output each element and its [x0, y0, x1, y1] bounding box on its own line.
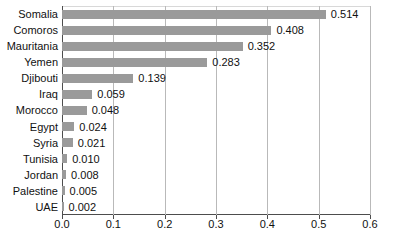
category-label: Comoros [0, 22, 58, 38]
bar-row: 0.010 [62, 151, 370, 167]
bar-value-label: 0.048 [92, 102, 120, 118]
x-axis-tick-label: 0.2 [157, 218, 172, 230]
category-label: Somalia [0, 6, 58, 22]
bar [62, 90, 92, 99]
category-label: Morocco [0, 102, 58, 118]
horizontal-bar-chart: 0.5140.4080.3520.2830.1390.0590.0480.024… [0, 0, 394, 247]
category-label: Syria [0, 135, 58, 151]
bar-row: 0.008 [62, 167, 370, 183]
bar [62, 186, 65, 195]
bar [62, 58, 207, 67]
category-label: Mauritania [0, 38, 58, 54]
bar-row: 0.408 [62, 22, 370, 38]
bar-value-label: 0.008 [71, 167, 99, 183]
bar-row: 0.139 [62, 70, 370, 86]
x-axis-tick-label: 0.3 [208, 218, 223, 230]
x-axis-tick-label: 0.6 [362, 218, 377, 230]
bar-value-label: 0.024 [79, 119, 107, 135]
bar [62, 170, 66, 179]
bar-row: 0.048 [62, 102, 370, 118]
bar-row: 0.283 [62, 54, 370, 70]
x-axis-tick-label: 0.0 [54, 218, 69, 230]
bar [62, 42, 243, 51]
bar-row: 0.514 [62, 6, 370, 22]
category-label: Jordan [0, 167, 58, 183]
bar [62, 154, 67, 163]
bar-row: 0.059 [62, 86, 370, 102]
bar-row: 0.021 [62, 135, 370, 151]
bar-value-label: 0.139 [138, 70, 166, 86]
x-axis-tick-label: 0.4 [260, 218, 275, 230]
bar [62, 138, 73, 147]
gridline [370, 6, 371, 215]
x-axis-tick-label: 0.1 [106, 218, 121, 230]
category-label: Egypt [0, 119, 58, 135]
category-label: Djibouti [0, 70, 58, 86]
bar-row: 0.005 [62, 183, 370, 199]
bar-value-label: 0.408 [276, 22, 304, 38]
category-label: Yemen [0, 54, 58, 70]
bar-value-label: 0.059 [97, 86, 125, 102]
bar-value-label: 0.005 [70, 183, 98, 199]
bar [62, 202, 64, 211]
category-label: UAE [0, 199, 58, 215]
bar-value-label: 0.002 [69, 199, 97, 215]
bar-value-label: 0.021 [78, 135, 106, 151]
bar-row: 0.002 [62, 199, 370, 215]
x-axis-tick-label: 0.5 [311, 218, 326, 230]
plot-area: 0.5140.4080.3520.2830.1390.0590.0480.024… [62, 6, 370, 215]
category-label: Tunisia [0, 151, 58, 167]
bar [62, 74, 133, 83]
bar [62, 122, 74, 131]
bar [62, 10, 326, 19]
category-label: Palestine [0, 183, 58, 199]
bar-value-label: 0.352 [248, 38, 276, 54]
bar-value-label: 0.514 [331, 6, 359, 22]
bar-value-label: 0.010 [72, 151, 100, 167]
bar [62, 26, 271, 35]
bar-row: 0.352 [62, 38, 370, 54]
bar-value-label: 0.283 [212, 54, 240, 70]
bar-row: 0.024 [62, 119, 370, 135]
category-label: Iraq [0, 86, 58, 102]
bar [62, 106, 87, 115]
